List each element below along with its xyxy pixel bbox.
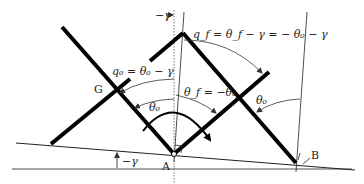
slope-line xyxy=(16,143,355,170)
label-B: B xyxy=(311,149,319,162)
label-q0-equation: q₀ = θ₀ − γ xyxy=(112,65,174,78)
label-neg-gamma-bottom: −γ xyxy=(122,155,138,168)
tick-mark-B2 xyxy=(303,158,310,164)
leg-initial-swing xyxy=(51,79,130,144)
label-thetaf-equation: θ_f = −θ₀ xyxy=(184,86,237,99)
label-A: A xyxy=(161,160,171,173)
pivot-point-A xyxy=(172,152,177,157)
label-neg-gamma-top: −γ xyxy=(155,9,171,22)
gait-diagram: A B G −γ −γ q₀ = θ₀ − γ q_f = θ_f − γ = … xyxy=(0,0,364,184)
label-qf-equation: q_f = θ_f − γ = − θ₀ − γ xyxy=(193,28,328,41)
label-theta0-right: θ₀ xyxy=(256,94,268,107)
tick-mark-B xyxy=(298,153,300,160)
label-theta0-left: θ₀ xyxy=(149,101,161,114)
label-G: G xyxy=(94,83,103,96)
leg-upper-left xyxy=(150,33,183,61)
